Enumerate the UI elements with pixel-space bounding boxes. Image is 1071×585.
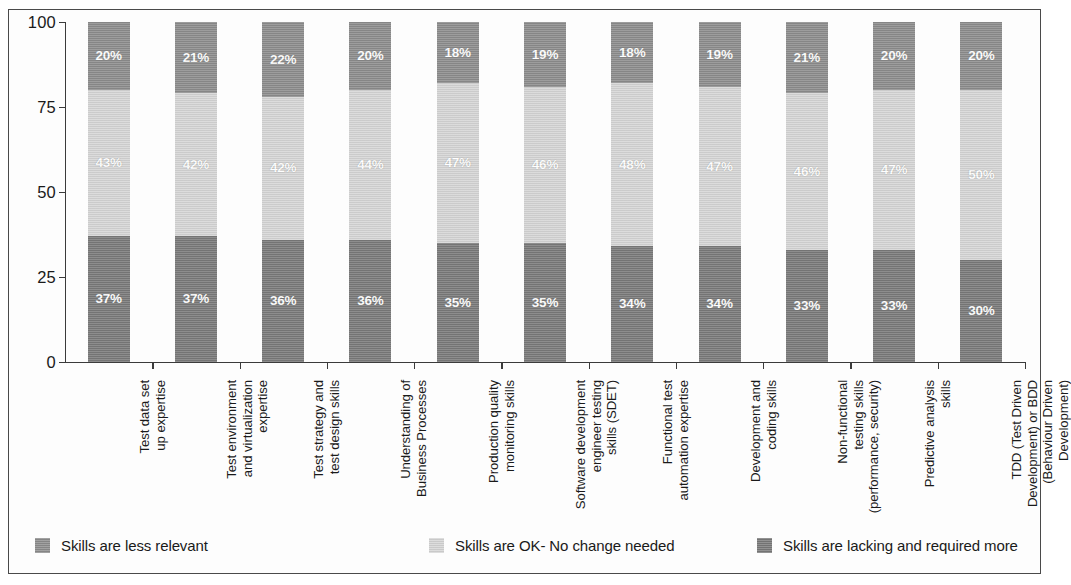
bar-stack[interactable]: 37%42%21% <box>175 22 217 362</box>
legend-item[interactable]: Skills are lacking and required more <box>757 537 1018 554</box>
bar-stack[interactable]: 33%46%21% <box>786 22 828 362</box>
bar-segment-value-label: 20% <box>357 49 383 63</box>
y-axis-tick-label: 0 <box>47 353 56 372</box>
legend-item[interactable]: Skills are OK- No change needed <box>429 537 675 554</box>
bar-segment[interactable]: 47% <box>699 87 741 247</box>
bar-segment[interactable]: 46% <box>524 87 566 243</box>
bar-segment-value-label: 20% <box>968 49 994 63</box>
bar-segment[interactable]: 48% <box>611 83 653 246</box>
bar-segment-value-label: 36% <box>357 294 383 308</box>
bar-segment-value-label: 47% <box>881 163 907 177</box>
y-axis-tick-mark <box>59 277 65 278</box>
chart-legend: Skills are less relevantSkills are OK- N… <box>29 537 1024 563</box>
bar-segment-value-label: 33% <box>881 299 907 313</box>
bar-segment[interactable]: 21% <box>786 22 828 93</box>
bar-segment[interactable]: 42% <box>262 97 304 240</box>
bar-segment-value-label: 34% <box>619 297 645 311</box>
bar-segment[interactable]: 34% <box>611 246 653 362</box>
bar-segment-value-label: 37% <box>95 292 121 306</box>
bar-segment[interactable]: 18% <box>437 22 479 83</box>
x-axis-line <box>65 362 1025 363</box>
bar-segment-value-label: 18% <box>619 46 645 60</box>
bar-segment[interactable]: 19% <box>699 22 741 87</box>
bar-segment[interactable]: 43% <box>88 90 130 236</box>
bar-segment[interactable]: 22% <box>262 22 304 97</box>
bar-stack[interactable]: 35%47%18% <box>437 22 479 362</box>
bar-segment[interactable]: 34% <box>699 246 741 362</box>
bar-segment[interactable]: 33% <box>786 250 828 362</box>
bar-segment[interactable]: 21% <box>175 22 217 93</box>
x-axis-category-label: Production quality monitoring skills <box>486 380 517 530</box>
bar-segment-value-label: 47% <box>706 160 732 174</box>
bar-segment[interactable]: 44% <box>349 90 391 240</box>
bar-segment[interactable]: 35% <box>437 243 479 362</box>
bar-segment-value-label: 42% <box>270 161 296 175</box>
bar-segment-value-label: 21% <box>794 51 820 65</box>
x-axis-tick-mark <box>676 362 677 369</box>
bar-segment[interactable]: 37% <box>175 236 217 362</box>
bar-segment[interactable]: 42% <box>175 93 217 236</box>
legend-swatch <box>757 538 772 553</box>
bar-segment-value-label: 30% <box>968 304 994 318</box>
bar-segment[interactable]: 47% <box>437 83 479 243</box>
x-axis-tick-mark <box>327 362 328 369</box>
bar-segment[interactable]: 36% <box>349 240 391 362</box>
bar-stack[interactable]: 36%44%20% <box>349 22 391 362</box>
bar-segment[interactable]: 36% <box>262 240 304 362</box>
x-axis-tick-mark <box>152 362 153 369</box>
bar-stack[interactable]: 35%46%19% <box>524 22 566 362</box>
x-axis-category-label: Functional test automation expertise <box>660 380 691 530</box>
bar-segment-value-label: 48% <box>619 158 645 172</box>
bar-stack[interactable]: 30%50%20% <box>960 22 1002 362</box>
x-axis-tick-mark <box>850 362 851 369</box>
bar-segment-value-label: 33% <box>794 299 820 313</box>
x-axis-tick-mark <box>501 362 502 369</box>
y-axis-tick-mark <box>59 22 65 23</box>
bar-segment-value-label: 36% <box>270 294 296 308</box>
y-axis-tick-mark <box>59 362 65 363</box>
bar-segment[interactable]: 20% <box>88 22 130 90</box>
x-axis-category-label: TDD (Test Driven Development) or BDD (Be… <box>1009 380 1071 530</box>
bar-segment[interactable]: 35% <box>524 243 566 362</box>
x-axis-category-label: Understanding of Business Processes <box>398 380 429 530</box>
x-axis-category-label: Non-functional testing skills (performan… <box>835 380 882 530</box>
bar-stack[interactable]: 33%47%20% <box>873 22 915 362</box>
y-axis-tick-label: 75 <box>37 98 56 117</box>
bar-segment-value-label: 44% <box>357 158 383 172</box>
legend-label: Skills are OK- No change needed <box>455 537 675 554</box>
bar-segment[interactable]: 20% <box>873 22 915 90</box>
bar-segment-value-label: 22% <box>270 53 296 67</box>
bar-segment[interactable]: 47% <box>873 90 915 250</box>
bar-segment-value-label: 20% <box>881 49 907 63</box>
y-axis-tick-label: 25 <box>37 268 56 287</box>
bar-stack[interactable]: 34%48%18% <box>611 22 653 362</box>
bar-segment[interactable]: 50% <box>960 90 1002 260</box>
bar-segment[interactable]: 30% <box>960 260 1002 362</box>
bar-segment[interactable]: 37% <box>88 236 130 362</box>
y-axis-tick-label: 100 <box>28 13 56 32</box>
x-axis-category-label: Development and coding skills <box>748 380 779 530</box>
bar-segment-value-label: 47% <box>445 156 471 170</box>
bar-segment[interactable]: 20% <box>960 22 1002 90</box>
bar-segment-value-label: 37% <box>183 292 209 306</box>
y-axis-tick-label: 50 <box>37 183 56 202</box>
bar-segment[interactable]: 46% <box>786 93 828 249</box>
legend-label: Skills are lacking and required more <box>783 537 1018 554</box>
bar-segment-value-label: 46% <box>532 158 558 172</box>
x-axis-tick-mark <box>240 362 241 369</box>
x-axis-tick-mark <box>938 362 939 369</box>
bar-segment-value-label: 35% <box>532 296 558 310</box>
bar-segment[interactable]: 19% <box>524 22 566 87</box>
plot-area: 0255075100 37%43%20%37%42%21%36%42%22%36… <box>65 22 1025 362</box>
bar-stack[interactable]: 36%42%22% <box>262 22 304 362</box>
y-axis-line <box>65 22 66 362</box>
y-axis-tick-mark <box>59 192 65 193</box>
bar-stack[interactable]: 34%47%19% <box>699 22 741 362</box>
legend-label: Skills are less relevant <box>61 537 208 554</box>
bar-segment[interactable]: 33% <box>873 250 915 362</box>
x-axis-category-label: Predictive analysis skills <box>922 380 953 530</box>
bar-segment[interactable]: 18% <box>611 22 653 83</box>
legend-item[interactable]: Skills are less relevant <box>35 537 208 554</box>
bar-segment[interactable]: 20% <box>349 22 391 90</box>
bar-stack[interactable]: 37%43%20% <box>88 22 130 362</box>
